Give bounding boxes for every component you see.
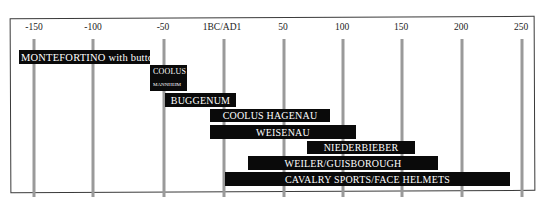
bar-weisenau: WEISENAU <box>210 125 356 139</box>
tick-label: 100 <box>335 22 349 32</box>
bar-label: MONTEFORTINO with buttor <box>21 51 150 64</box>
bar-label: CAVALRY SPORTS/FACE HELMETS <box>285 173 450 186</box>
bar-label: COOLUS <box>153 67 186 77</box>
bar-label: WEILER/GUISBOROUGH <box>285 157 402 170</box>
tick-label: 200 <box>454 22 468 32</box>
bar-coolus-hagenau: COOLUS HAGENAU <box>210 109 330 122</box>
tick-label: 50 <box>278 22 288 32</box>
tick-label: 250 <box>514 22 528 32</box>
tick-label: -100 <box>84 22 101 32</box>
bar-niederbieber: NIEDERBIEBER <box>307 141 415 154</box>
bar-cavalry-sports-face-helmets: CAVALRY SPORTS/FACE HELMETS <box>225 172 510 186</box>
tick-label: 150 <box>394 22 408 32</box>
bar-montefortino: MONTEFORTINO with buttor <box>19 50 150 64</box>
bar-sublabel: MANNHEIM <box>153 80 181 90</box>
tick-label: -150 <box>25 22 42 32</box>
bar-label: COOLUS HAGENAU <box>223 109 318 122</box>
gridline <box>521 39 524 197</box>
tick-label: 1BC/AD1 <box>203 22 242 32</box>
bar-buggenum: BUGGENUM <box>165 93 236 107</box>
bar-label: WEISENAU <box>256 126 310 139</box>
bar-coolus-mannheim: COOLUS MANNHEIM <box>150 65 187 91</box>
tick-label: -50 <box>157 22 170 32</box>
bar-weiler-guisborough: WEILER/GUISBOROUGH <box>248 156 438 170</box>
gridline <box>163 39 166 197</box>
bar-label: NIEDERBIEBER <box>324 141 399 154</box>
bar-label: BUGGENUM <box>171 94 230 107</box>
